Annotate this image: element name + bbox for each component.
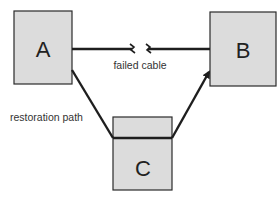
restoration-segment-a-c <box>72 70 113 138</box>
node-a-label: A <box>36 37 51 62</box>
failed-cable-label: failed cable <box>113 59 166 71</box>
node-b: B <box>210 12 276 86</box>
node-c-label: C <box>135 156 151 181</box>
failed-cable-edge: failed cable <box>72 44 210 71</box>
network-diagram: A B C failed cable restoration path <box>0 0 280 198</box>
node-c: C <box>113 117 172 190</box>
node-a: A <box>14 11 72 84</box>
restoration-path-label: restoration path <box>10 111 83 123</box>
node-b-label: B <box>236 38 251 63</box>
restoration-segment-c-b <box>172 72 209 138</box>
